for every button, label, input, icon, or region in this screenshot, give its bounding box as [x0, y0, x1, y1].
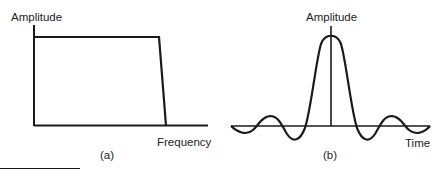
panel-a-spectrum-curve: [34, 37, 166, 126]
panel-b-y-axis-label: Amplitude: [306, 12, 357, 24]
panel-a-x-axis-label: Frequency: [157, 137, 211, 149]
panel-b-caption: (b): [323, 150, 337, 162]
panel-a-caption: (a): [100, 150, 114, 162]
panel-b-x-axis-label: Time: [405, 138, 430, 150]
panel-b-graph: [231, 26, 430, 140]
panel-a-y-axis-label: Amplitude: [11, 12, 62, 24]
diagram-canvas: [0, 0, 439, 171]
panel-a-graph: [34, 25, 208, 126]
